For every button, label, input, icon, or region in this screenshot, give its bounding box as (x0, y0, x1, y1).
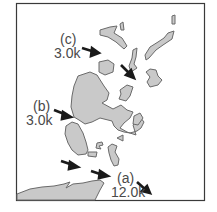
label-c-value: 3.0k (54, 45, 81, 61)
island-north-tall (120, 22, 124, 30)
island-round (99, 60, 114, 75)
island-north-east-dot (172, 15, 175, 24)
archipelago-map: (c) 3.0k (b) 3.0k (a) 12.0k (0, 0, 217, 212)
label-a-value: 12.0k (111, 184, 146, 200)
island-small-rect (88, 152, 97, 157)
label-b-value: 3.0k (26, 112, 53, 128)
